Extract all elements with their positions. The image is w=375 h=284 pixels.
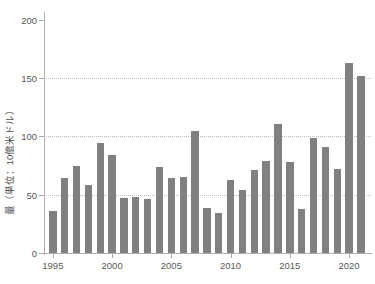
bar [262, 161, 269, 253]
y-tick-mark-0 [39, 253, 44, 254]
bar [73, 166, 80, 253]
x-tick-mark-1995 [53, 254, 54, 258]
x-axis-spine [44, 253, 372, 254]
x-tick-mark-2000 [112, 254, 113, 258]
y-axis-title: 量（単位：10億米ドル） [0, 18, 18, 284]
bar [85, 185, 92, 253]
bar [274, 124, 281, 253]
plot-area [44, 14, 371, 253]
bar [203, 208, 210, 253]
x-tick-label-2015: 2015 [279, 260, 300, 271]
bar [61, 178, 68, 253]
y-tick-label-100: 100 [21, 131, 37, 142]
x-tick-label-2010: 2010 [220, 260, 241, 271]
x-tick-mark-2015 [290, 254, 291, 258]
y-tick-label-200: 200 [21, 14, 37, 25]
bar-chart: 量（単位：10億米ドル） 050100150200 19952000200520… [0, 0, 375, 284]
x-tick-label-1995: 1995 [42, 260, 63, 271]
gridline-150 [44, 78, 371, 79]
bar [132, 197, 139, 253]
gridline-100 [44, 136, 371, 137]
bar [108, 155, 115, 253]
x-tick-label-2005: 2005 [161, 260, 182, 271]
bar [298, 209, 305, 253]
bar [357, 76, 364, 253]
x-tick-mark-2020 [349, 254, 350, 258]
x-tick-mark-2010 [231, 254, 232, 258]
bar [180, 177, 187, 253]
bar [215, 213, 222, 253]
bar [97, 143, 104, 253]
bar [334, 169, 341, 253]
bar [156, 167, 163, 253]
bar [322, 147, 329, 253]
x-tick-label-2020: 2020 [339, 260, 360, 271]
bar [191, 131, 198, 253]
bar [239, 190, 246, 253]
bar [286, 162, 293, 253]
x-tick-label-2000: 2000 [102, 260, 123, 271]
x-tick-mark-2005 [171, 254, 172, 258]
bar [168, 178, 175, 253]
bar [49, 211, 56, 253]
bar [227, 180, 234, 253]
bar [120, 198, 127, 253]
y-tick-label-0: 0 [32, 248, 37, 259]
y-tick-label-50: 50 [26, 189, 37, 200]
bar [345, 63, 352, 253]
bar [144, 199, 151, 253]
y-tick-label-150: 150 [21, 73, 37, 84]
bar [251, 170, 258, 253]
bar [310, 138, 317, 253]
